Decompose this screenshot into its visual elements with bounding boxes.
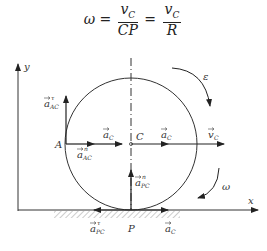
x-axis-label: x	[248, 195, 254, 206]
epsilon-label: ε	[203, 71, 208, 82]
point-p-label: P	[127, 223, 135, 234]
rolling-disk-diagram: y x ε ω A C P a AC τ a AC n a C a C v	[0, 0, 267, 251]
label-v-c: v C	[208, 129, 219, 141]
label-a-ac-n: a AC n	[77, 145, 92, 161]
sup: n	[142, 173, 146, 180]
omega-label: ω	[222, 181, 230, 192]
label-a-pc-tau: a PC τ	[90, 219, 105, 235]
omega-arrow	[198, 168, 219, 198]
label-a-pc-n: a PC n	[135, 173, 150, 189]
sub: PC	[95, 228, 105, 235]
sub: C	[109, 134, 114, 141]
vector-overbars	[44, 97, 214, 225]
sup: τ	[97, 219, 101, 226]
sub: AC	[82, 154, 92, 161]
sub: PC	[140, 182, 150, 189]
sup: n	[84, 145, 88, 152]
label-a-c-bottom: a C	[165, 223, 176, 235]
sub: C	[214, 134, 219, 141]
label-a-c-right: a C	[161, 129, 172, 141]
ground-hatch	[54, 211, 180, 218]
sub: AC	[49, 103, 59, 110]
label-a-ac-tau: a AC τ	[44, 94, 59, 110]
sub: C	[171, 228, 176, 235]
label-a-c-left: a C	[103, 129, 114, 141]
point-a-label: A	[54, 139, 62, 150]
sub: C	[167, 134, 172, 141]
point-c-label: C	[136, 131, 144, 142]
y-axis-label: y	[23, 61, 30, 72]
sup: τ	[51, 94, 55, 101]
